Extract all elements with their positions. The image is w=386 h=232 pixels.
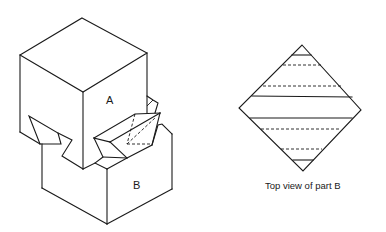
right-dovetail-bottom — [103, 157, 127, 158]
top-view-caption: Top view of part B — [265, 180, 341, 191]
right-dovetail-front-side — [110, 142, 127, 158]
left-zigzag-edge — [58, 133, 83, 169]
right-dovetail-tongue — [94, 138, 103, 163]
part-b-top-right-edge — [107, 124, 172, 169]
dovetail-joint-diagram: A B Top view of part B — [0, 0, 386, 232]
right-dovetail-tongue-top — [94, 113, 160, 138]
top-view-line-4-solid — [252, 96, 352, 97]
right-back-dovetail-tip-inner — [147, 100, 153, 106]
part-b-bottom-right-edge — [107, 189, 172, 224]
part-a-bottom-left-edge — [20, 132, 40, 144]
part-a-top-face — [20, 18, 147, 92]
top-view-diamond-outline — [239, 45, 361, 171]
part-b-block: B — [42, 124, 172, 224]
right-dovetail-diagonal — [110, 113, 160, 142]
part-a-block: A — [20, 18, 160, 169]
hidden-edge-cross — [127, 118, 155, 144]
right-dovetail-tongue-outline — [83, 163, 107, 169]
top-view-part-b: Top view of part B — [239, 45, 361, 191]
part-a-label: A — [106, 94, 114, 106]
part-b-label: B — [133, 179, 140, 191]
right-dovetail-inner-top — [94, 138, 110, 142]
part-b-bottom-left-edge — [42, 188, 107, 224]
